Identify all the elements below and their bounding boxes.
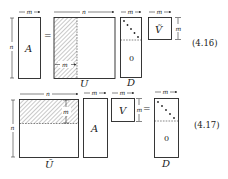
svg-text:n: n: [10, 43, 14, 50]
matrix-v: V m m: [112, 89, 143, 122]
matrix-d-row1: 0 m D: [121, 8, 142, 88]
equation-number-4-16: (4.16): [192, 38, 218, 48]
matrix-a-label: A: [24, 43, 32, 54]
matrix-u-tilde-label: Ũ: [45, 159, 54, 170]
svg-text:m: m: [157, 8, 163, 15]
dimension-m-top: m: [112, 89, 134, 96]
svg-text:m: m: [27, 8, 33, 15]
svd-diagram: A m n =: [0, 0, 228, 179]
svg-text:n: n: [11, 124, 15, 131]
equation-4-17: n n m Ũ A: [11, 88, 220, 170]
svg-text:m: m: [120, 89, 126, 96]
svg-text:n: n: [82, 8, 86, 15]
dimension-n-left: n: [10, 18, 15, 78]
diagonal-dots: [157, 101, 175, 119]
hatched-columns: [54, 18, 77, 79]
equals-sign-2: =: [143, 104, 151, 114]
dimension-m-right: m: [136, 99, 143, 122]
dimension-n-top: n: [20, 90, 78, 97]
matrix-d-label: D: [161, 158, 170, 169]
svg-text:m: m: [163, 88, 169, 95]
matrix-a-row2: A m: [84, 89, 108, 158]
zero-label: 0: [164, 134, 169, 143]
svg-text:m: m: [92, 89, 98, 96]
dimension-m-top: m: [84, 89, 106, 96]
dimension-m-top: m: [121, 8, 141, 15]
matrix-v-tilde-label: Ṽ: [155, 24, 164, 35]
equation-number-4-17: (4.17): [194, 120, 220, 130]
matrix-v-tilde: Ṽ m m: [149, 8, 182, 40]
matrix-d-box: [155, 99, 179, 158]
matrix-d-box: [121, 18, 142, 78]
equals-sign-1: =: [44, 31, 52, 41]
matrix-u-tilde: n n m Ũ: [11, 90, 79, 170]
svg-text:n: n: [46, 90, 50, 97]
svg-text:m: m: [62, 61, 68, 68]
svg-text:m: m: [128, 8, 134, 15]
dimension-m-top: m: [149, 8, 171, 15]
dimension-n-left: n: [11, 100, 16, 157]
matrix-v-label: V: [119, 105, 128, 116]
dimension-m-top: m: [19, 8, 40, 15]
dimension-n-top: n: [54, 8, 114, 15]
svg-text:m: m: [137, 106, 143, 113]
matrix-u: n m U: [54, 8, 115, 89]
matrix-u-label: U: [80, 78, 89, 89]
equation-4-16: A m n =: [10, 8, 218, 89]
dimension-m-right: m: [175, 18, 182, 40]
matrix-a-row1: A m n: [10, 8, 41, 79]
svg-text:m: m: [63, 108, 69, 115]
matrix-d-label: D: [126, 77, 135, 88]
dimension-m-inner: m: [55, 61, 76, 69]
matrix-a-label: A: [90, 123, 98, 134]
diagonal-dots: [123, 20, 139, 38]
matrix-d-row2: 0 m D: [155, 88, 179, 169]
zero-label: 0: [129, 54, 134, 63]
dimension-m-top: m: [155, 88, 177, 95]
svg-text:m: m: [176, 25, 182, 32]
